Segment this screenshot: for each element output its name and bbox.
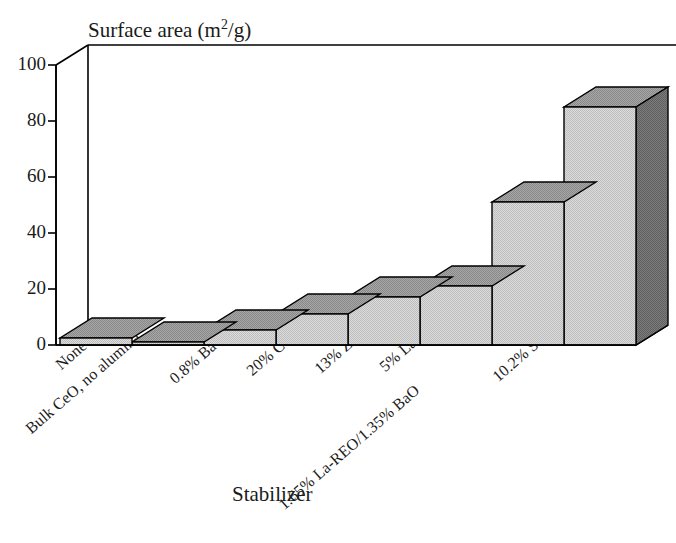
plot-area bbox=[0, 0, 676, 543]
bar-chart: Surface area (m2/g) Stabilizer 100 80 60… bbox=[0, 0, 676, 543]
bar-10-2-sio bbox=[564, 87, 668, 345]
